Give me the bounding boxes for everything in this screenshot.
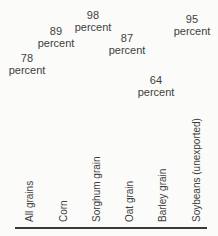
value-label-barley-grain: 64 percent — [138, 75, 175, 98]
category-label-corn: Corn — [58, 200, 69, 222]
value-number: 78 — [9, 53, 46, 65]
category-label-soybeans: Soybeans (unexported) — [191, 118, 202, 222]
x-axis-baseline — [15, 227, 207, 229]
value-label-sorghum-grain: 98 percent — [75, 10, 112, 33]
value-number: 64 — [138, 75, 175, 87]
value-unit: percent — [174, 26, 211, 38]
value-label-all-grains: 78 percent — [9, 53, 46, 76]
value-number: 95 — [174, 14, 211, 26]
value-label-corn: 89 percent — [38, 26, 75, 49]
category-label-sorghum-grain: Sorghum grain — [91, 156, 102, 222]
value-label-soybeans: 95 percent — [174, 14, 211, 37]
category-label-barley-grain: Barley grain — [157, 169, 168, 222]
category-label-oat-grain: Oat grain — [124, 181, 135, 222]
value-number: 87 — [109, 33, 146, 45]
value-unit: percent — [9, 65, 46, 77]
value-unit: percent — [75, 22, 112, 34]
value-number: 98 — [75, 10, 112, 22]
value-unit: percent — [38, 38, 75, 50]
value-label-oat-grain: 87 percent — [109, 33, 146, 56]
value-unit: percent — [109, 45, 146, 57]
value-number: 89 — [38, 26, 75, 38]
value-unit: percent — [138, 87, 175, 99]
chart-canvas: 78 percent 89 percent 98 percent 87 perc… — [0, 0, 218, 236]
category-label-all-grains: All grains — [24, 181, 35, 222]
